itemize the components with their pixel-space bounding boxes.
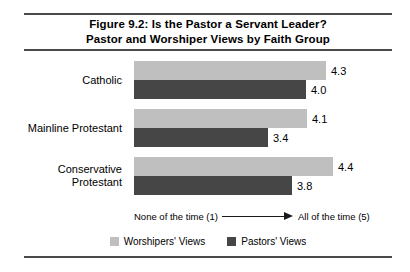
- category-label-line-1: Conservative: [58, 163, 122, 176]
- right-arrow-icon: [222, 212, 294, 221]
- top-rule: [24, 13, 392, 15]
- legend-label: Pastors' Views: [241, 236, 306, 247]
- bar-value-worshipers: 4.4: [333, 161, 353, 173]
- chart-legend: Worshipers' Views Pastors' Views: [24, 233, 392, 249]
- bar-pastors: [134, 80, 306, 99]
- bar-pair: 4.3 4.0: [134, 61, 410, 99]
- bar-row-worshipers: 4.3: [134, 61, 410, 80]
- bottom-rule: [24, 256, 392, 258]
- bar-worshipers: [134, 61, 326, 80]
- legend-item-pastors: Pastors' Views: [227, 236, 306, 247]
- bar-worshipers: [134, 109, 307, 128]
- chart-group-mainline-protestant: Mainline Protestant 4.1 3.4: [0, 109, 410, 147]
- arrow-head: [284, 212, 293, 220]
- legend-item-worshipers: Worshipers' Views: [110, 236, 206, 247]
- bar-value-pastors: 3.8: [292, 180, 312, 192]
- bar-value-pastors: 3.4: [268, 132, 288, 144]
- legend-label: Worshipers' Views: [124, 236, 206, 247]
- figure-container: Figure 9.2: Is the Pastor a Servant Lead…: [0, 0, 410, 272]
- category-label: Conservative Protestant: [0, 157, 128, 195]
- arrow-shaft: [222, 216, 285, 218]
- bar-pair: 4.1 3.4: [134, 109, 410, 147]
- legend-swatch-icon: [227, 237, 236, 246]
- axis-scale-min-label: None of the time (1): [134, 211, 218, 222]
- bar-row-worshipers: 4.1: [134, 109, 410, 128]
- legend-swatch-icon: [110, 237, 119, 246]
- figure-title: Figure 9.2: Is the Pastor a Servant Lead…: [24, 17, 392, 47]
- figure-title-line-2: Pastor and Worshiper Views by Faith Grou…: [24, 32, 392, 47]
- category-label-line-2: Protestant: [72, 176, 122, 189]
- bar-pastors: [134, 176, 292, 195]
- bar-row-pastors: 3.4: [134, 128, 410, 147]
- category-label-line-1: Mainline Protestant: [28, 122, 122, 135]
- bar-worshipers: [134, 157, 333, 176]
- bar-value-worshipers: 4.1: [307, 113, 327, 125]
- axis-scale-max-label: All of the time (5): [298, 211, 370, 222]
- category-label-line-1: Catholic: [82, 74, 122, 87]
- bar-value-worshipers: 4.3: [326, 65, 346, 77]
- chart-group-catholic: Catholic 4.3 4.0: [0, 61, 410, 99]
- category-label: Catholic: [0, 61, 128, 99]
- bar-pastors: [134, 128, 268, 147]
- bar-row-pastors: 3.8: [134, 176, 410, 195]
- chart-group-conservative-protestant: Conservative Protestant 4.4 3.8: [0, 157, 410, 195]
- bar-value-pastors: 4.0: [306, 84, 326, 96]
- chart-plot-area: Catholic 4.3 4.0 Mainline Protestant: [0, 58, 410, 204]
- title-divider-rule: [24, 49, 392, 51]
- bar-row-worshipers: 4.4: [134, 157, 410, 176]
- bar-pair: 4.4 3.8: [134, 157, 410, 195]
- axis-scale-annotation: None of the time (1) All of the time (5): [134, 208, 394, 224]
- category-label: Mainline Protestant: [0, 109, 128, 147]
- bar-row-pastors: 4.0: [134, 80, 410, 99]
- figure-title-line-1: Figure 9.2: Is the Pastor a Servant Lead…: [24, 17, 392, 32]
